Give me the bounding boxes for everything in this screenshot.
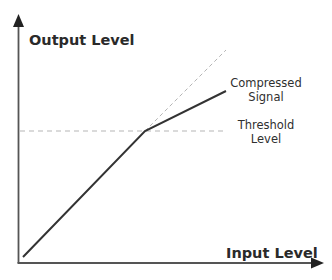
threshold-label-line1: Threshold bbox=[237, 118, 295, 132]
y-axis-arrow-icon bbox=[13, 14, 24, 27]
uncompressed-line bbox=[145, 50, 226, 131]
signal-line bbox=[23, 91, 226, 257]
compressed-signal-label-line1: Compressed bbox=[230, 76, 301, 90]
threshold-label-line2: Level bbox=[251, 132, 281, 146]
x-axis-label: Input Level bbox=[226, 245, 318, 261]
compressed-signal-label-line2: Signal bbox=[248, 90, 283, 104]
y-axis-label: Output Level bbox=[29, 32, 135, 48]
compressor-diagram: Output Level Input Level Compressed Sign… bbox=[0, 0, 332, 280]
